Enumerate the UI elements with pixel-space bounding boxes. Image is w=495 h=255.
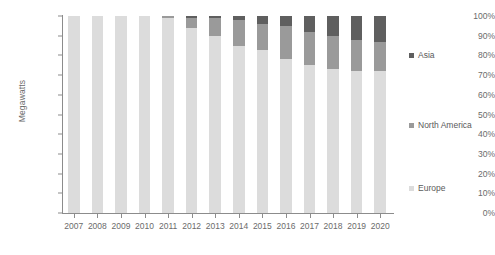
legend-item-europe[interactable]: Europe xyxy=(409,184,445,193)
x-tick-label: 2016 xyxy=(276,221,295,231)
bar-segment-north-america[interactable] xyxy=(257,24,269,50)
x-axis-line xyxy=(62,213,394,214)
bar-column[interactable] xyxy=(351,16,363,213)
bar-column[interactable] xyxy=(92,16,104,213)
bar-segment-europe[interactable] xyxy=(162,18,174,213)
bar-column[interactable] xyxy=(162,16,174,213)
y-tick-label: 70% xyxy=(449,70,495,80)
x-tick-label: 2008 xyxy=(88,221,107,231)
x-tick-mark xyxy=(121,214,122,218)
y-tick-label: 90% xyxy=(449,31,495,41)
bar-column[interactable] xyxy=(280,16,292,213)
bar-segment-europe[interactable] xyxy=(68,16,80,213)
bar-segment-north-america[interactable] xyxy=(327,36,339,69)
bar-segment-europe[interactable] xyxy=(374,71,386,213)
y-tick-label: 40% xyxy=(449,129,495,139)
y-tick-label: 0% xyxy=(449,208,495,218)
bar-segment-asia[interactable] xyxy=(280,16,292,26)
x-tick-label: 2020 xyxy=(371,221,390,231)
legend-label: Asia xyxy=(418,51,435,60)
bar-column[interactable] xyxy=(304,16,316,213)
bar-segment-north-america[interactable] xyxy=(374,42,386,72)
legend-label: Europe xyxy=(418,184,445,193)
bar-segment-europe[interactable] xyxy=(209,36,221,213)
y-tick-label: 100% xyxy=(449,11,495,21)
legend-swatch-icon xyxy=(409,53,414,58)
y-axis-title: Megawatts xyxy=(17,31,27,171)
bar-segment-asia[interactable] xyxy=(304,16,316,32)
bar-segment-asia[interactable] xyxy=(327,16,339,36)
x-tick-label: 2013 xyxy=(206,221,225,231)
bar-segment-europe[interactable] xyxy=(257,50,269,214)
y-tick-label: 20% xyxy=(449,169,495,179)
x-tick-mark xyxy=(215,214,216,218)
legend-swatch-icon xyxy=(409,123,414,128)
bar-segment-europe[interactable] xyxy=(304,65,316,213)
bar-column[interactable] xyxy=(68,16,80,213)
stacked-bar-chart: Megawatts 0%10%20%30%40%50%60%70%80%90%1… xyxy=(0,0,495,255)
bar-segment-asia[interactable] xyxy=(257,16,269,24)
bar-segment-europe[interactable] xyxy=(351,71,363,213)
x-tick-mark xyxy=(286,214,287,218)
x-tick-mark xyxy=(239,214,240,218)
bar-segment-europe[interactable] xyxy=(233,46,245,213)
x-tick-mark xyxy=(74,214,75,218)
bar-segment-north-america[interactable] xyxy=(351,40,363,72)
bar-column[interactable] xyxy=(374,16,386,213)
x-tick-label: 2007 xyxy=(64,221,83,231)
x-tick-mark xyxy=(380,214,381,218)
y-tick-label: 10% xyxy=(449,188,495,198)
x-tick-mark xyxy=(262,214,263,218)
plot-area xyxy=(62,16,392,213)
bar-segment-asia[interactable] xyxy=(374,16,386,42)
x-tick-label: 2011 xyxy=(159,221,177,231)
bar-segment-north-america[interactable] xyxy=(280,26,292,59)
y-tick-label: 60% xyxy=(449,90,495,100)
x-tick-label: 2010 xyxy=(135,221,154,231)
x-tick-mark xyxy=(357,214,358,218)
bar-column[interactable] xyxy=(186,16,198,213)
bar-segment-europe[interactable] xyxy=(280,59,292,213)
bar-column[interactable] xyxy=(257,16,269,213)
bar-segment-north-america[interactable] xyxy=(233,20,245,46)
bar-column[interactable] xyxy=(233,16,245,213)
bar-segment-north-america[interactable] xyxy=(209,18,221,36)
x-tick-label: 2014 xyxy=(229,221,248,231)
y-tick-label: 80% xyxy=(449,50,495,60)
x-tick-label: 2017 xyxy=(300,221,319,231)
bar-segment-europe[interactable] xyxy=(186,28,198,213)
legend-swatch-icon xyxy=(409,186,414,191)
bar-column[interactable] xyxy=(115,16,127,213)
bar-segment-europe[interactable] xyxy=(327,69,339,213)
x-tick-mark xyxy=(145,214,146,218)
legend-item-north-america[interactable]: North America xyxy=(409,121,472,130)
x-tick-label: 2019 xyxy=(347,221,366,231)
bar-segment-asia[interactable] xyxy=(351,16,363,40)
x-tick-mark xyxy=(168,214,169,218)
x-tick-label: 2015 xyxy=(253,221,272,231)
bar-column[interactable] xyxy=(327,16,339,213)
x-tick-label: 2018 xyxy=(324,221,343,231)
bar-column[interactable] xyxy=(139,16,151,213)
x-tick-mark xyxy=(310,214,311,218)
bar-segment-europe[interactable] xyxy=(139,16,151,213)
x-tick-label: 2009 xyxy=(111,221,130,231)
x-tick-label: 2012 xyxy=(182,221,201,231)
bar-segment-europe[interactable] xyxy=(115,16,127,213)
x-tick-mark xyxy=(97,214,98,218)
bar-segment-north-america[interactable] xyxy=(186,18,198,28)
y-tick-label: 30% xyxy=(449,149,495,159)
x-tick-mark xyxy=(333,214,334,218)
legend-item-asia[interactable]: Asia xyxy=(409,51,435,60)
bar-segment-europe[interactable] xyxy=(92,16,104,213)
bar-column[interactable] xyxy=(209,16,221,213)
y-tick-label: 50% xyxy=(449,110,495,120)
x-tick-mark xyxy=(192,214,193,218)
legend-label: North America xyxy=(418,121,472,130)
bar-segment-north-america[interactable] xyxy=(304,32,316,65)
